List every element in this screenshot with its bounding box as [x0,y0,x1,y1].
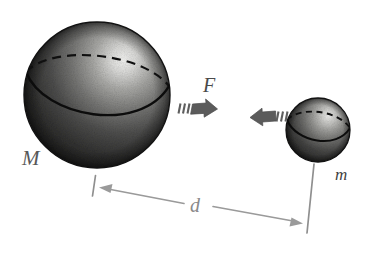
dimension-tick-left [93,176,96,197]
distance-dimension [93,164,315,233]
force-arrow-right-motion-marks [179,104,190,114]
figure-canvas: M m F [0,0,369,258]
distance-label: d [190,194,201,216]
force-label: F [202,74,216,96]
force-arrow-right-head [191,99,218,117]
small-mass-label: m [335,165,347,184]
large-mass-label: M [21,146,41,170]
force-arrow-left-head [250,108,276,126]
dimension-line-left [108,189,184,204]
large-sphere [24,22,170,168]
dimension-arrowhead-right [290,218,304,227]
gravitation-figure: M m F [0,0,369,258]
dimension-arrowhead-left [99,184,113,193]
force-arrow-left-motion-marks [277,112,288,122]
force-arrow-left [250,108,288,126]
small-sphere [286,98,350,162]
force-arrow-right [179,99,218,117]
dimension-line-right [213,207,293,222]
dimension-tick-right [307,164,314,233]
